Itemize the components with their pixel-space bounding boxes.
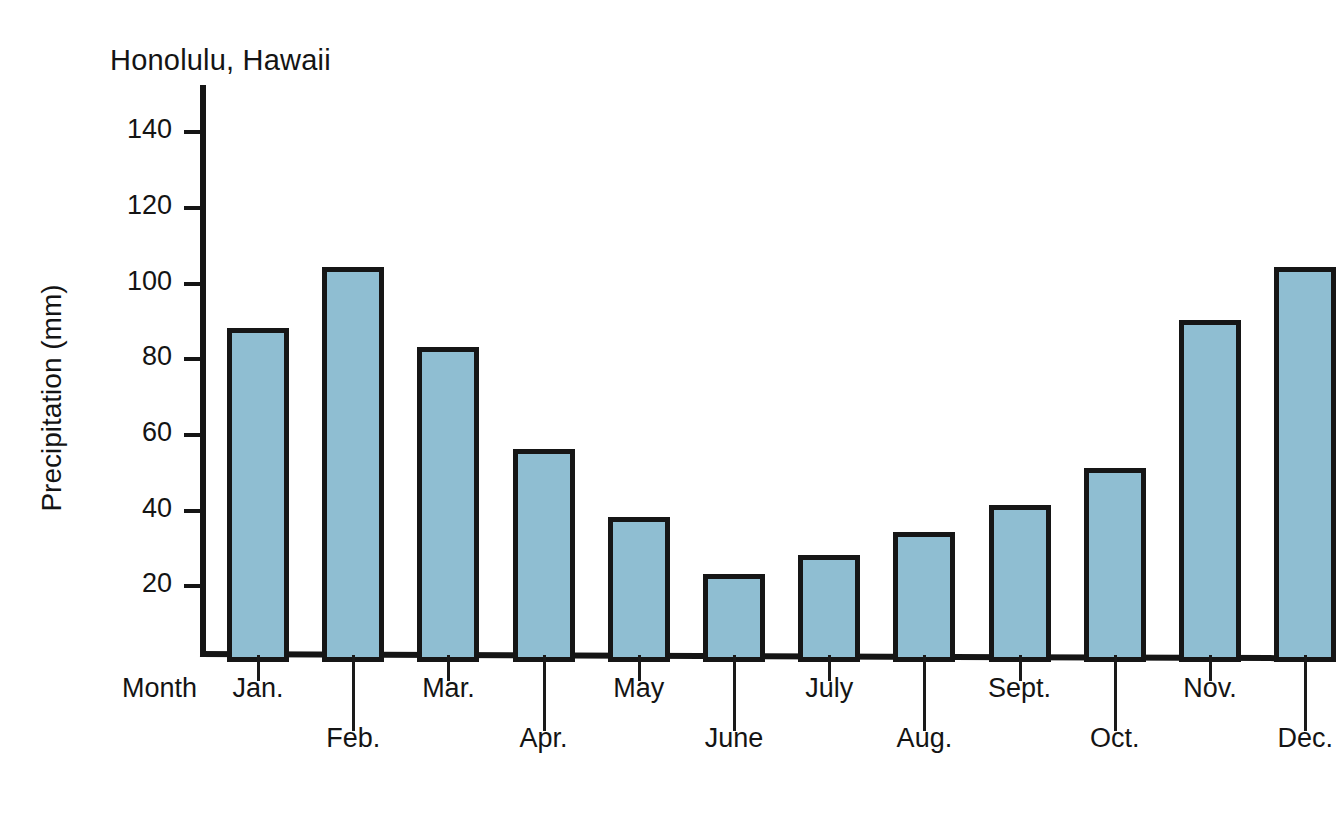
bar (608, 517, 670, 662)
y-axis-line (200, 85, 206, 656)
x-axis-category-label: Aug. (897, 723, 953, 754)
x-axis-title: Month (122, 673, 197, 704)
bar (417, 347, 479, 662)
bar (893, 532, 955, 662)
y-axis-title: Precipitation (mm) (36, 238, 68, 558)
y-axis-tick (184, 130, 204, 134)
bar (703, 574, 765, 662)
x-axis-category-label: May (613, 673, 664, 704)
x-axis-category-label: Dec. (1277, 723, 1333, 754)
y-axis-tick (184, 357, 204, 361)
x-axis-category-label: Oct. (1090, 723, 1140, 754)
x-axis-category-label: Apr. (520, 723, 568, 754)
y-axis-tick (184, 433, 204, 437)
x-axis-category-label: Feb. (326, 723, 380, 754)
x-axis-category-label: Sept. (988, 673, 1051, 704)
category-leader-line (733, 655, 736, 731)
category-leader-line (923, 655, 926, 731)
category-leader-line (543, 655, 546, 731)
chart-title: Honolulu, Hawaii (110, 44, 331, 77)
y-axis-tick-label: 20 (82, 568, 172, 599)
category-leader-line (352, 655, 355, 731)
y-axis-tick (184, 509, 204, 513)
bar (322, 267, 384, 662)
x-axis-category-label: June (705, 723, 764, 754)
x-axis-category-label: Mar. (422, 673, 475, 704)
x-axis-category-label: July (805, 673, 853, 704)
y-axis-tick-label: 140 (82, 114, 172, 145)
bar (989, 505, 1051, 662)
y-axis-tick-label: 80 (82, 341, 172, 372)
bar (1179, 320, 1241, 662)
bar (513, 449, 575, 662)
y-axis-tick (184, 282, 204, 286)
category-leader-line (1304, 655, 1307, 731)
y-axis-tick-label: 120 (82, 190, 172, 221)
bar (227, 328, 289, 662)
y-axis-tick (184, 584, 204, 588)
y-axis-tick-label: 100 (82, 266, 172, 297)
y-axis-tick-label: 40 (82, 493, 172, 524)
bar (1084, 468, 1146, 662)
category-leader-line (1114, 655, 1117, 731)
x-axis-category-label: Nov. (1183, 673, 1237, 704)
y-axis-tick (184, 206, 204, 210)
y-axis-tick-label: 60 (82, 417, 172, 448)
bar (1274, 267, 1336, 662)
x-axis-category-label: Jan. (232, 673, 283, 704)
bar (798, 555, 860, 662)
